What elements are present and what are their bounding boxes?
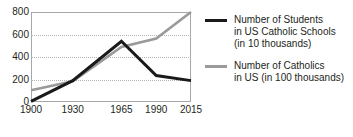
legend-line-swatch-students [205,19,227,22]
y-tick-label-800: 800 [1,7,29,17]
x-tick-label-2015: 2015 [180,104,202,116]
x-tick-label-1965: 1965 [110,104,132,116]
legend-label-line: Number of Catholics [234,60,344,72]
legend-label-line: Number of Students [234,14,336,26]
x-tick-label-1900: 1900 [20,104,42,116]
y-tick-label-400: 400 [1,52,29,62]
y-tick-label-600: 600 [1,30,29,40]
x-tick-label-1990: 1990 [145,104,167,116]
legend-label-line: in US (in 100 thousands) [234,72,344,84]
y-tick-label-200: 200 [1,75,29,85]
legend-label-line: (in 10 thousands) [234,38,336,50]
legend-line-swatch-catholics [205,65,227,68]
series-line-students [31,41,191,101]
legend-entry-students: Number of Studentsin US Catholic Schools… [205,14,353,51]
legend: Number of Studentsin US Catholic Schools… [205,14,353,93]
x-axis: 19001930196519902015 [31,104,191,120]
y-axis: 0200400600800 [0,12,29,102]
legend-label-students: Number of Studentsin US Catholic Schools… [234,14,336,51]
legend-swatch-bar [205,65,227,68]
legend-label-catholics: Number of Catholicsin US (in 100 thousan… [234,60,344,84]
legend-entry-catholics: Number of Catholicsin US (in 100 thousan… [205,60,353,84]
plot-area [31,12,191,102]
legend-swatch-bar [205,19,227,22]
legend-label-line: in US Catholic Schools [234,26,336,38]
chart-figure: 0200400600800 19001930196519902015 Numbe… [0,0,353,137]
x-tick-label-1930: 1930 [62,104,84,116]
series-lines [31,12,191,102]
